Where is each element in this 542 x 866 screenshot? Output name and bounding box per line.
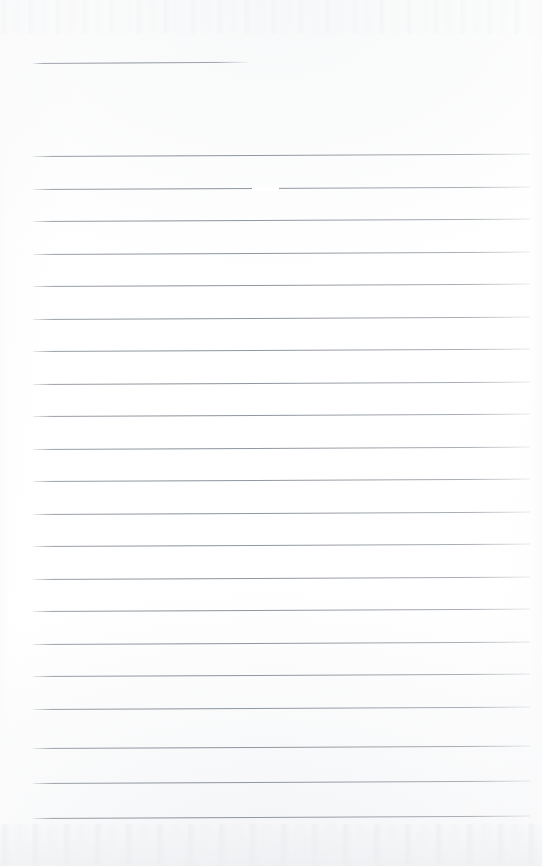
body-rule bbox=[33, 187, 530, 190]
body-rule bbox=[33, 284, 530, 287]
body-rule bbox=[33, 609, 530, 612]
body-rule bbox=[33, 816, 530, 819]
body-rule bbox=[33, 447, 530, 450]
body-rule bbox=[33, 512, 530, 515]
body-rule bbox=[33, 544, 530, 547]
scan-noise-top bbox=[0, 0, 542, 34]
body-rule bbox=[33, 674, 530, 677]
body-rule bbox=[33, 219, 530, 222]
body-rule bbox=[33, 349, 530, 352]
body-rule bbox=[33, 414, 530, 417]
body-rule bbox=[33, 317, 530, 320]
body-rule bbox=[33, 154, 530, 157]
page-edge-left bbox=[0, 0, 10, 866]
body-rule bbox=[33, 252, 530, 255]
body-rule bbox=[33, 707, 530, 710]
body-rule bbox=[33, 382, 530, 385]
scanned-page bbox=[0, 0, 542, 866]
header-rule bbox=[33, 62, 248, 64]
body-rule bbox=[33, 479, 530, 482]
scan-noise-bottom bbox=[0, 824, 542, 866]
paper-surface bbox=[0, 0, 542, 866]
body-rule bbox=[33, 746, 530, 749]
body-rule bbox=[33, 781, 530, 784]
body-rule bbox=[33, 642, 530, 645]
body-rule bbox=[33, 577, 530, 580]
page-edge-right bbox=[530, 0, 542, 866]
